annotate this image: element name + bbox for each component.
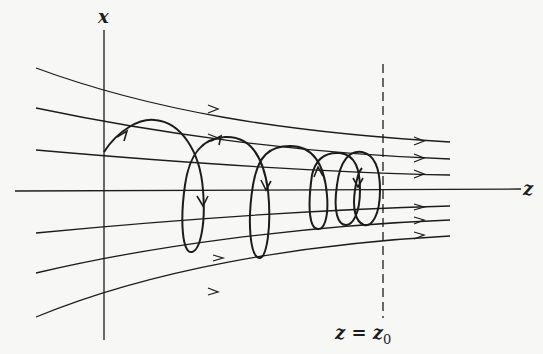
field-line-2 <box>36 108 450 159</box>
field-arrow-icons <box>208 105 424 295</box>
field-line-1 <box>36 68 450 142</box>
z0-label-sub: 0 <box>383 332 391 347</box>
x-axis-label: x <box>98 6 109 27</box>
field-line-3 <box>36 150 450 175</box>
z-axis-label: z <box>523 178 533 199</box>
z0-label-main: z = z <box>335 322 383 343</box>
diagram-canvas <box>0 0 543 354</box>
field-line-5 <box>36 220 450 273</box>
field-line-4 <box>36 206 450 233</box>
z0-label: z = z0 <box>335 322 391 347</box>
field-line-6 <box>36 236 450 317</box>
